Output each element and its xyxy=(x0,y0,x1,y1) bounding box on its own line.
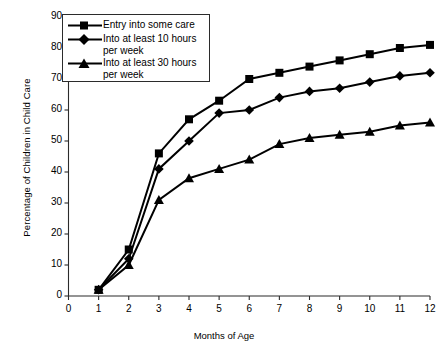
data-point-marker xyxy=(275,69,283,77)
data-point-marker xyxy=(275,93,285,103)
legend-label-0: Entry into some care xyxy=(102,19,195,31)
data-point-marker xyxy=(215,97,223,105)
data-point-marker xyxy=(335,84,345,94)
data-point-marker xyxy=(244,155,254,164)
triangle-marker-icon xyxy=(68,57,102,70)
chart-legend: Entry into some care Into at least 10 ho… xyxy=(62,14,210,82)
legend-item-0: Entry into some care xyxy=(68,19,204,32)
data-point-marker xyxy=(425,68,435,78)
data-point-marker xyxy=(395,71,405,81)
legend-label-2: Into at least 30 hours per week xyxy=(102,57,204,80)
data-point-marker xyxy=(306,63,314,71)
data-point-marker xyxy=(366,50,374,58)
legend-item-1: Into at least 10 hours per week xyxy=(68,33,204,56)
diamond-marker-icon xyxy=(68,33,102,46)
data-point-marker xyxy=(396,44,404,52)
data-point-marker xyxy=(244,105,254,115)
chart-container: Percentage of Children in Child Care Mon… xyxy=(0,0,448,350)
series-1 xyxy=(94,68,435,295)
data-point-marker xyxy=(305,87,315,97)
data-point-marker xyxy=(426,41,434,49)
square-marker-icon xyxy=(68,19,102,32)
series-2 xyxy=(94,117,435,293)
data-point-marker xyxy=(365,77,375,87)
data-point-marker xyxy=(245,75,253,83)
data-point-marker xyxy=(155,149,163,157)
data-point-marker xyxy=(336,56,344,64)
legend-item-2: Into at least 30 hours per week xyxy=(68,57,204,80)
data-point-marker xyxy=(185,115,193,123)
legend-label-1: Into at least 10 hours per week xyxy=(102,33,204,56)
